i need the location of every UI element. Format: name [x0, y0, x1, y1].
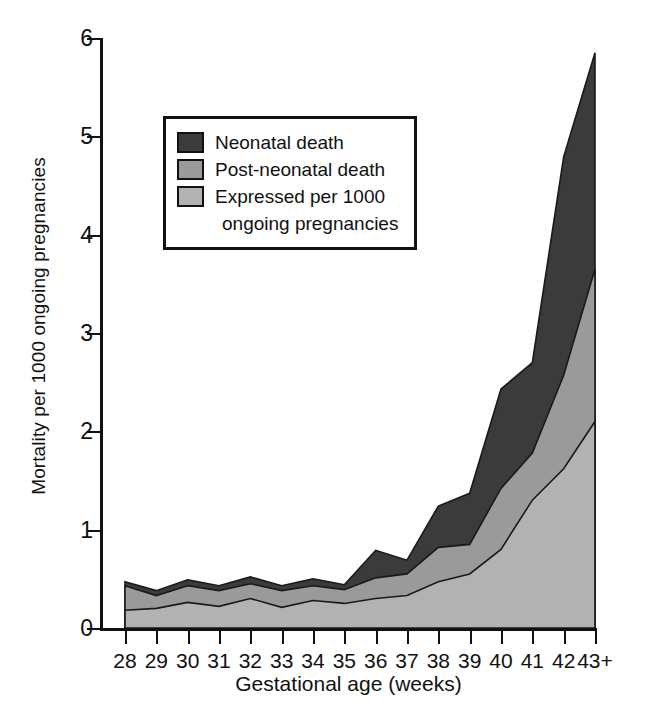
legend-continuation-text: ongoing pregnancies: [222, 211, 398, 236]
x-tick-mark: [250, 631, 252, 644]
y-axis-title: Mortality per 1000 ongoing pregnancies: [28, 26, 50, 626]
x-tick-label-29: 29: [145, 650, 168, 671]
x-tick-label-36: 36: [364, 650, 387, 671]
x-tick-label-43plus: 43+: [577, 650, 613, 671]
legend-swatch-icon: [177, 186, 204, 207]
legend-item-0: Neonatal death: [177, 130, 398, 155]
x-tick-mark: [438, 631, 440, 644]
chart-figure: Mortality per 1000 ongoing pregnancies 0…: [0, 0, 649, 722]
legend-item-label: Neonatal death: [215, 130, 344, 155]
x-tick-mark: [470, 631, 472, 644]
x-tick-label-31: 31: [207, 650, 230, 671]
y-tick-label: 2: [80, 420, 93, 443]
x-tick-mark: [501, 631, 503, 644]
x-tick-mark: [125, 631, 127, 644]
x-tick-label-30: 30: [176, 650, 199, 671]
x-tick-label-34: 34: [301, 650, 324, 671]
y-tick-label: 1: [80, 518, 93, 541]
x-tick-label-39: 39: [458, 650, 481, 671]
x-tick-label-35: 35: [333, 650, 356, 671]
x-tick-label-42: 42: [552, 650, 575, 671]
x-tick-label-37: 37: [395, 650, 418, 671]
x-tick-mark: [564, 631, 566, 644]
x-tick-mark: [376, 631, 378, 644]
legend-item-label: Expressed per 1000: [215, 184, 385, 209]
legend-swatch-icon: [177, 159, 204, 180]
x-tick-label-28: 28: [113, 650, 136, 671]
y-tick-label: 4: [80, 223, 93, 246]
x-tick-mark: [344, 631, 346, 644]
x-tick-mark: [156, 631, 158, 644]
x-tick-mark: [313, 631, 315, 644]
x-tick-mark: [188, 631, 190, 644]
x-tick-label-32: 32: [239, 650, 262, 671]
legend-item-label: Post-neonatal death: [215, 157, 385, 182]
x-axis-line: [100, 628, 597, 631]
legend-swatch-icon: [177, 132, 204, 153]
legend-item-1: Post-neonatal death: [177, 157, 398, 182]
y-tick-label: 5: [80, 125, 93, 148]
y-axis-line: [100, 38, 103, 631]
legend-item-2: Expressed per 1000: [177, 184, 398, 209]
x-tick-mark: [532, 631, 534, 644]
x-tick-label-38: 38: [427, 650, 450, 671]
x-axis-title: Gestational age (weeks): [235, 672, 461, 695]
y-tick-label: 6: [80, 27, 93, 50]
x-tick-mark: [407, 631, 409, 644]
x-tick-label-41: 41: [521, 650, 544, 671]
legend-box: Neonatal deathPost-neonatal deathExpress…: [163, 116, 417, 250]
y-tick-label: 0: [80, 617, 93, 640]
x-tick-label-40: 40: [489, 650, 512, 671]
x-tick-mark: [219, 631, 221, 644]
x-tick-mark: [595, 631, 597, 644]
x-tick-label-33: 33: [270, 650, 293, 671]
x-tick-mark: [282, 631, 284, 644]
y-tick-label: 3: [80, 322, 93, 345]
